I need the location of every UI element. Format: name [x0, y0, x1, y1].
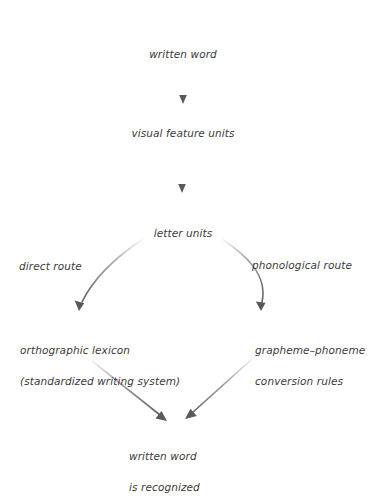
node-written-word-is-recognized-line2: is recognized [129, 480, 200, 496]
edge-label-direct-route-text: direct route [19, 260, 82, 272]
arrow-grapheme-phoneme-rules-to-result [185, 359, 252, 419]
node-written-word-label: written word [149, 48, 217, 60]
arrow-visual-feature-units-to-letter-units [178, 140, 186, 193]
edge-label-direct-route: direct route [19, 259, 82, 274]
node-grapheme-phoneme-rules-line2: conversion rules [255, 374, 365, 390]
node-orthographic-lexicon-line2: (standardized writing system) [20, 374, 180, 390]
node-written-word-is-recognized-line1: written word [129, 449, 200, 465]
node-written-word: written word [149, 31, 217, 62]
arrow-letter-units-to-grapheme-phoneme-rules [222, 239, 266, 311]
node-letter-units: letter units [154, 210, 213, 241]
edge-label-phonological-route-text: phonological route [252, 259, 352, 271]
node-letter-units-label: letter units [154, 227, 213, 239]
node-grapheme-phoneme-rules-line1: grapheme–phoneme [255, 343, 365, 359]
node-orthographic-lexicon: orthographic lexicon (standardized writi… [20, 327, 180, 405]
edge-label-phonological-route: phonological route [252, 258, 352, 273]
node-orthographic-lexicon-line1: orthographic lexicon [20, 343, 180, 359]
arrow-letter-units-to-orthographic-lexicon [75, 239, 143, 311]
node-grapheme-phoneme-rules: grapheme–phoneme conversion rules [255, 327, 365, 405]
node-written-word-is-recognized: written word is recognized [129, 433, 200, 497]
node-visual-feature-units-label: visual feature units [131, 127, 234, 139]
node-visual-feature-units: visual feature units [131, 110, 234, 141]
